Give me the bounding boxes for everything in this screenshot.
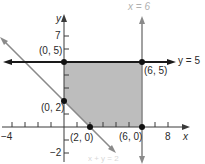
y-tick-label-neg2: −2: [50, 148, 61, 158]
point-0-5: [61, 59, 67, 65]
point-6-0: [139, 124, 145, 130]
x-tick-label-neg4: −4: [1, 132, 12, 142]
y-axis: [61, 14, 69, 162]
y-axis-label: y: [56, 14, 61, 24]
line-label-x-eq-6: x = 6: [128, 2, 150, 12]
x-tick-label-8: 8: [165, 132, 171, 142]
y-tick-label-7: 7: [55, 31, 61, 41]
point-label-0-5: (0, 5): [39, 46, 62, 56]
feasible-region: [64, 62, 142, 127]
point-label-2-0: (2, 0): [70, 133, 93, 143]
point-label-6-0: (6, 0): [119, 132, 142, 142]
point-label-6-5: (6, 5): [144, 66, 167, 76]
point-2-0: [87, 124, 93, 130]
x-axis-label: x: [183, 132, 188, 142]
point-label-0-2: (0, 2): [41, 103, 64, 113]
line-label-x-plus-y-eq-2: x + y = 2: [88, 155, 119, 163]
linear-programming-graph: [0, 0, 205, 164]
line-label-y-eq-5: y = 5: [178, 56, 200, 66]
